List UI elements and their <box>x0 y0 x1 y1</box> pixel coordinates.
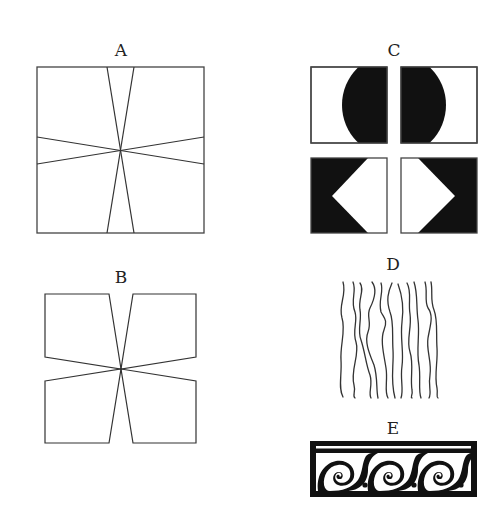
panel-c: C <box>311 40 477 233</box>
wavy-line <box>398 284 403 398</box>
wavy-line <box>359 283 371 398</box>
panel-c-label: C <box>387 40 400 60</box>
figure-canvas: A B C D <box>0 0 503 512</box>
scroll-dot <box>406 454 411 459</box>
scroll-dot <box>357 454 362 459</box>
scroll-dot <box>456 454 461 459</box>
panel-b: B <box>45 267 196 443</box>
panel-d: D <box>340 254 438 398</box>
panel-b-label: B <box>115 267 128 287</box>
scroll-dot <box>362 482 367 487</box>
wavy-line <box>340 282 344 397</box>
wavy-line <box>380 283 388 398</box>
wavy-line <box>388 283 395 398</box>
panel-b-piece-bottom-left <box>45 369 121 443</box>
wavy-line <box>367 282 378 398</box>
panel-e-label: E <box>387 418 399 438</box>
panel-b-piece-top-right <box>121 294 196 369</box>
panel-e: E <box>310 418 478 497</box>
panel-b-piece-top-left <box>45 294 121 369</box>
wavy-line <box>353 282 357 398</box>
panel-e-top-stripe <box>316 446 471 449</box>
scroll-dot <box>458 482 463 487</box>
scroll-dot <box>411 482 416 487</box>
panel-a: A <box>37 40 204 233</box>
panel-d-label: D <box>386 254 400 274</box>
wavy-line <box>414 282 421 398</box>
panel-a-label: A <box>114 40 128 60</box>
wavy-line <box>407 283 412 398</box>
wavy-line <box>431 282 438 398</box>
scroll-dot <box>318 482 323 487</box>
wavy-line <box>425 282 431 398</box>
panel-b-piece-bottom-right <box>121 369 196 443</box>
